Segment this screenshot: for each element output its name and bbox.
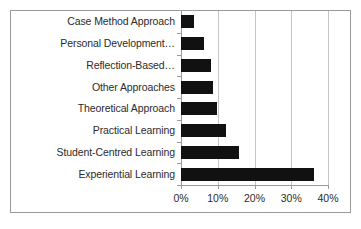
x-tick-mark: [291, 185, 292, 189]
category-label: Personal Development…: [11, 37, 181, 50]
category-label: Theoretical Approach: [11, 102, 181, 115]
x-tick-mark: [255, 185, 256, 189]
chart-frame: Case Method ApproachPersonal Development…: [10, 10, 351, 213]
category-label: Reflection-Based…: [11, 59, 181, 72]
y-tick-mark: [177, 33, 181, 34]
bar: [181, 146, 239, 159]
x-tick-mark: [218, 185, 219, 189]
gridline-10pct: [218, 11, 219, 185]
bar: [181, 59, 211, 72]
y-tick-mark: [177, 163, 181, 164]
gridline-40pct: [328, 11, 329, 185]
gridline-20pct: [255, 11, 256, 185]
category-label: Case Method Approach: [11, 15, 181, 28]
bar: [181, 124, 226, 137]
category-label: Student-Centred Learning: [11, 146, 181, 159]
y-tick-mark: [177, 98, 181, 99]
x-tick-mark: [181, 185, 182, 189]
y-tick-mark: [177, 76, 181, 77]
x-tick-label: 20%: [235, 192, 275, 204]
category-label: Other Approaches: [11, 81, 181, 94]
bar: [181, 15, 194, 28]
bar: [181, 168, 314, 181]
category-label: Experiential Learning: [11, 168, 181, 181]
y-tick-mark: [177, 120, 181, 121]
x-tick-label: 40%: [308, 192, 348, 204]
gridline-30pct: [291, 11, 292, 185]
bar: [181, 81, 213, 94]
bar: [181, 102, 217, 115]
category-label: Practical Learning: [11, 124, 181, 137]
y-tick-mark: [177, 55, 181, 56]
x-tick-label: 0%: [161, 192, 201, 204]
bar: [181, 37, 204, 50]
x-tick-label: 30%: [271, 192, 311, 204]
x-tick-mark: [328, 185, 329, 189]
x-tick-label: 10%: [198, 192, 238, 204]
y-tick-mark: [177, 142, 181, 143]
